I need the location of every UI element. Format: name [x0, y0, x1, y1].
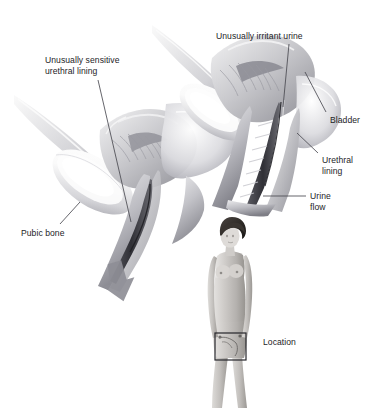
label-urine-flow: Urineflow [310, 191, 331, 212]
illustration-canvas: Unusually sensitiveurethral lining Pubic… [0, 0, 387, 420]
label-urethral-lining: Urethrallining [322, 155, 353, 176]
label-bladder: Bladder [330, 115, 360, 126]
label-unusually-irritant-urine: Unusually irritant urine [216, 31, 303, 42]
label-unusually-sensitive-urethral-lining: Unusually sensitiveurethral lining [45, 55, 120, 76]
leader-pubic-bone [60, 202, 80, 224]
label-location: Location [263, 337, 296, 348]
location-figure [208, 217, 253, 408]
label-pubic-bone: Pubic bone [21, 228, 65, 239]
